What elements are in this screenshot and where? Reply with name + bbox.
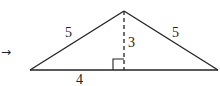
triangle-right-side: [124, 11, 218, 70]
arrow-icon: →: [1, 45, 11, 59]
left-side-label: 5: [65, 25, 72, 40]
right-side-label: 5: [172, 25, 179, 40]
triangle-diagram: → 5 5 3 4: [0, 0, 220, 86]
height-label: 3: [128, 35, 135, 50]
triangle-svg: → 5 5 3 4: [0, 0, 220, 86]
half-base-label: 4: [76, 72, 83, 86]
triangle-left-side: [30, 11, 124, 70]
right-angle-marker: [113, 59, 124, 70]
